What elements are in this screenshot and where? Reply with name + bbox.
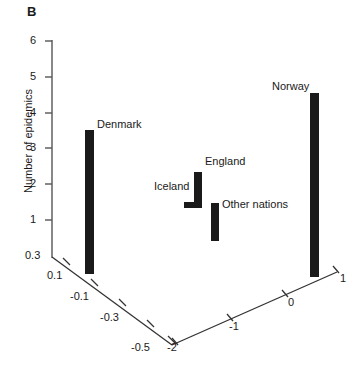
bar-england <box>194 172 202 208</box>
left-axis-tick-0-1: 0.1 <box>47 269 62 281</box>
y-tick-6: 6 <box>30 34 36 46</box>
y-tick-5: 5 <box>30 70 36 82</box>
vertical-axis <box>45 40 52 258</box>
right-axis-tick-neg-1: -1 <box>229 320 239 332</box>
right-axis-tick-1: 1 <box>340 272 346 284</box>
bar-label-other-nations: Other nations <box>222 198 288 210</box>
y-tick-4: 4 <box>30 106 36 118</box>
bar-norway <box>310 93 319 277</box>
iceland-leader-line <box>184 202 195 208</box>
bar-label-england: England <box>205 155 245 167</box>
left-axis-tick-neg-0-5: -0.5 <box>131 341 150 353</box>
left-axis-tick-neg-0-3: -0.3 <box>100 311 119 323</box>
bar-label-denmark: Denmark <box>97 118 142 130</box>
bar-other-nations <box>211 203 219 241</box>
y-tick-3: 3 <box>30 141 36 153</box>
bar-label-iceland: Iceland <box>154 180 189 192</box>
left-axis-tick-neg-0-1: -0.1 <box>70 290 89 302</box>
bar-label-norway: Norway <box>272 80 309 92</box>
bar-denmark <box>85 130 94 274</box>
y-tick-1: 1 <box>30 213 36 225</box>
y-tick-2: 2 <box>30 177 36 189</box>
right-axis-tick-neg-2: -2 <box>167 341 177 353</box>
left-axis-tick-0-3: 0.3 <box>25 249 40 261</box>
right-floor-axis <box>172 266 339 345</box>
epidemics-3d-bar-chart: B Number of epidemics <box>0 0 360 370</box>
right-axis-tick-0: 0 <box>288 296 294 308</box>
